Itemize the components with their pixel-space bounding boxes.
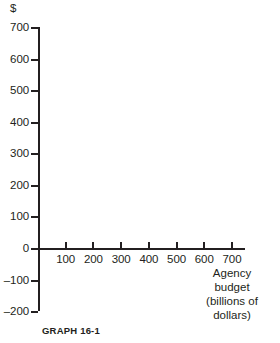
x-axis-tick [203, 242, 205, 249]
y-axis-line [38, 27, 40, 311]
x-axis-title-line-1: Agency [186, 266, 278, 280]
x-axis-tick [120, 242, 122, 249]
x-axis-title-line-4: dollars) [186, 308, 278, 322]
x-axis-tick [65, 242, 67, 249]
y-axis-tick [31, 311, 38, 313]
y-axis-tick [31, 280, 38, 282]
x-axis-title: Agency budget (billions of dollars) [186, 266, 278, 322]
y-axis-tick-label-text: –100 [0, 275, 29, 286]
y-axis-tick [31, 27, 38, 29]
y-axis-tick-label-text: –200 [0, 306, 29, 317]
y-axis-tick [31, 90, 38, 92]
y-axis-tick [31, 122, 38, 124]
y-axis-tick-label-text: 500 [0, 85, 29, 96]
y-axis-tick-label-text: 200 [0, 180, 29, 191]
y-axis-tick [31, 248, 38, 250]
y-axis-tick [31, 185, 38, 187]
x-axis-tick-label: 700 [212, 253, 252, 265]
x-axis-tick [231, 242, 233, 249]
graph-caption: GRAPH 16-1 [42, 325, 100, 336]
y-axis-tick-label-text: 0 [0, 243, 29, 254]
x-axis-title-line-2: budget [186, 280, 278, 294]
y-axis-unit-symbol: $ [10, 2, 16, 14]
y-axis-tick [31, 59, 38, 61]
x-axis-tick [92, 242, 94, 249]
x-axis-tick [148, 242, 150, 249]
graph-figure: $ 7006005004003002001000–100–200 1002003… [0, 0, 280, 343]
x-axis-line [38, 248, 245, 250]
y-axis-tick [31, 216, 38, 218]
y-axis-tick-label-text: 300 [0, 148, 29, 159]
y-axis-tick-label-text: 100 [0, 211, 29, 222]
y-axis-tick [31, 153, 38, 155]
x-axis-title-line-3: (billions of [186, 294, 278, 308]
y-axis-tick-label-text: 400 [0, 117, 29, 128]
x-axis-tick [176, 242, 178, 249]
y-axis-tick-label-text: 600 [0, 54, 29, 65]
y-axis-tick-label-text: 700 [0, 22, 29, 33]
